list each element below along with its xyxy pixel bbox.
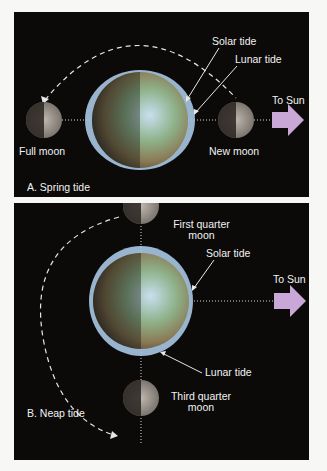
to-sun-arrow-icon [272, 104, 304, 136]
third-quarter-label: Third quarter moon [161, 391, 241, 413]
to-sun-label: To Sun [273, 274, 306, 285]
new-moon-label: New moon [209, 146, 259, 157]
third-quarter-moon [123, 380, 159, 416]
lunar-tide-label: Lunar tide [205, 367, 252, 378]
first-quarter-label: First quarter moon [164, 219, 239, 241]
neap-tide-panel: First quarter moon Solar tide To Sun Lun… [14, 203, 309, 460]
orbit-arrowhead [110, 431, 118, 439]
spring-tide-diagram [14, 12, 309, 197]
lunar-tide-pointer [164, 354, 202, 373]
spring-tide-panel: Solar tide Lunar tide To Sun Full moon N… [14, 12, 309, 197]
panel-caption: A. Spring tide [27, 182, 90, 193]
full-moon-label: Full moon [19, 146, 65, 157]
lunar-tide-label: Lunar tide [235, 54, 282, 65]
to-sun-label: To Sun [272, 95, 305, 106]
solar-tide-pointer [188, 48, 219, 98]
first-quarter-moon [123, 203, 159, 224]
to-sun-arrow-icon [274, 285, 306, 317]
full-moon [26, 102, 62, 138]
solar-tide-pointer [194, 260, 214, 288]
solar-tide-label: Solar tide [212, 36, 256, 47]
panel-caption: B. Neap tide [27, 408, 85, 419]
neap-tide-diagram [14, 203, 309, 460]
new-moon [218, 102, 254, 138]
solar-tide-label: Solar tide [206, 248, 250, 259]
